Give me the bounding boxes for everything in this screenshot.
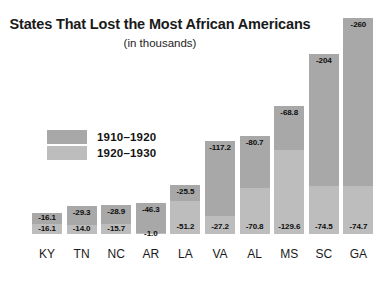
bar-column: -29.3-14.0TN [67, 206, 97, 234]
bar-value-label: -51.2 [170, 223, 200, 231]
bar-column: -46.3-1.0AR [136, 203, 166, 234]
bar-column: -204-74.5SC [309, 54, 339, 234]
bar-value-label: -129.6 [274, 223, 304, 231]
bar-segment: -129.6 [274, 150, 304, 234]
bar-column: -28.9-15.7NC [101, 205, 131, 234]
bar-segment: -74.7 [343, 186, 373, 234]
bar-segment: -70.8 [240, 188, 270, 234]
bar-value-label: -28.9 [101, 208, 131, 216]
bar-value-label: -117.2 [205, 144, 235, 152]
bar-column: -16.1-16.1KY [32, 213, 62, 234]
bar-value-label: -29.3 [67, 209, 97, 217]
category-label: GA [337, 248, 379, 260]
bar-segment: -80.7 [240, 136, 270, 188]
bar-value-label: -68.8 [274, 109, 304, 117]
bar-value-label: -27.2 [205, 223, 235, 231]
bar-value-label: -14.0 [67, 225, 97, 233]
stacked-bar: -25.5-51.2 [170, 185, 200, 234]
stacked-bar: -28.9-15.7 [101, 205, 131, 234]
bar-value-label: -80.7 [240, 139, 270, 147]
bar-value-label: -70.8 [240, 223, 270, 231]
bar-value-label: -74.5 [309, 223, 339, 231]
bar-segment: -68.8 [274, 106, 304, 150]
bar-segment: -14.0 [67, 225, 97, 234]
bar-segment: -204 [309, 54, 339, 186]
bar-segment: -16.1 [32, 213, 62, 223]
bar-value-label: -46.3 [136, 206, 166, 214]
bar-value-label: -1.0 [136, 230, 166, 238]
plot-area: -16.1-16.1KY-29.3-14.0TN-28.9-15.7NC-46.… [29, 0, 377, 268]
bar-value-label: -15.7 [101, 225, 131, 233]
bar-segment: -29.3 [67, 206, 97, 225]
bar-segment: -25.5 [170, 185, 200, 201]
bar-segment: -28.9 [101, 205, 131, 224]
bar-segment: -16.1 [32, 224, 62, 234]
stacked-bar: -117.2-27.2 [205, 141, 235, 234]
stacked-bar: -260-74.7 [343, 18, 373, 234]
bar-column: -260-74.7GA [343, 18, 373, 234]
bar-value-label: -16.1 [32, 214, 62, 222]
stacked-bar: -29.3-14.0 [67, 206, 97, 234]
bar-segment: -1.0 [136, 233, 166, 234]
bar-value-label: -74.7 [343, 223, 373, 231]
bar-segment: -117.2 [205, 141, 235, 217]
bar-value-label: -260 [343, 21, 373, 29]
bar-segment: -74.5 [309, 186, 339, 234]
stacked-bar: -80.7-70.8 [240, 136, 270, 234]
bar-segment: -260 [343, 18, 373, 186]
stacked-bar: -16.1-16.1 [32, 213, 62, 234]
bar-segment: -51.2 [170, 201, 200, 234]
bar-column: -80.7-70.8AL [240, 136, 270, 234]
bar-column: -68.8-129.6MS [274, 106, 304, 234]
bar-column: -117.2-27.2VA [205, 141, 235, 234]
stacked-bar: -68.8-129.6 [274, 106, 304, 234]
bar-column: -25.5-51.2LA [170, 185, 200, 234]
bar-value-label: -25.5 [170, 188, 200, 196]
stacked-bar: -46.3-1.0 [136, 203, 166, 234]
bar-segment: -15.7 [101, 224, 131, 234]
bar-segment: -27.2 [205, 216, 235, 234]
stacked-bar: -204-74.5 [309, 54, 339, 234]
bar-chart: States That Lost the Most African Americ… [0, 0, 382, 302]
bar-value-label: -204 [309, 57, 339, 65]
bar-value-label: -16.1 [32, 225, 62, 233]
